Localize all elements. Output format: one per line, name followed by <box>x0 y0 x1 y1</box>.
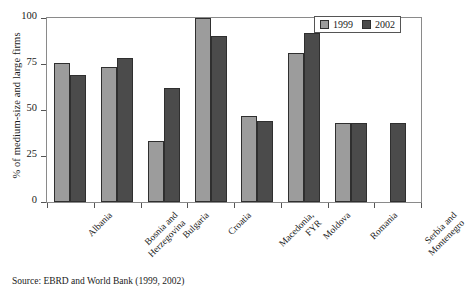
x-axis-label-line: Croatia <box>226 210 253 237</box>
x-tick-mark <box>281 203 282 208</box>
bar-2002-bosnia-and-herzegovina <box>117 58 133 202</box>
x-tick-mark <box>421 203 422 208</box>
bar-1999-moldova <box>288 53 304 202</box>
bar-2002-croatia <box>211 36 227 202</box>
bar-group <box>47 18 94 202</box>
bar-2002-albania <box>70 75 86 202</box>
y-tick-label: 50 <box>27 102 38 113</box>
y-tick-mark <box>41 110 46 111</box>
x-tick-mark <box>47 203 48 208</box>
bar-group <box>234 18 281 202</box>
y-tick-mark <box>41 202 46 203</box>
bar-1999-macedonia-fyr <box>241 116 257 202</box>
y-tick-label: 0 <box>32 194 37 205</box>
bar-group <box>328 18 375 202</box>
bar-group <box>141 18 188 202</box>
x-tick-mark <box>187 203 188 208</box>
bar-1999-albania <box>54 63 70 202</box>
x-axis-label: Moldova <box>321 210 353 242</box>
x-axis-label-line: Romania <box>368 210 400 242</box>
bars-layer <box>47 18 421 202</box>
y-axis-title: % of medium-size and large firms <box>11 6 22 206</box>
legend: 1999 2002 <box>314 16 401 33</box>
x-tick-mark <box>94 203 95 208</box>
bar-2002-bulgaria <box>164 88 180 202</box>
x-tick-mark <box>328 203 329 208</box>
y-tick-mark <box>41 64 46 65</box>
legend-label-2002: 2002 <box>375 19 395 30</box>
legend-entry-1999: 1999 <box>320 19 353 30</box>
bar-2002-macedonia-fyr <box>257 121 273 202</box>
bar-2002-romania <box>351 123 367 202</box>
x-axis-label: Macedonia,FYR <box>277 210 323 256</box>
y-tick-label: 100 <box>21 10 37 21</box>
legend-swatch-2002 <box>362 20 371 29</box>
y-tick-label: 25 <box>27 148 38 159</box>
bar-2002-moldova <box>304 33 320 202</box>
y-tick-label: 75 <box>27 56 38 67</box>
x-axis-label: Croatia <box>226 210 253 237</box>
legend-swatch-1999 <box>320 20 329 29</box>
x-tick-mark <box>374 203 375 208</box>
bar-1999-croatia <box>195 18 211 202</box>
bar-group <box>281 18 328 202</box>
bar-group <box>187 18 234 202</box>
x-axis-label: Bosnia andHerzegovina <box>138 210 187 259</box>
x-axis-label-line: Moldova <box>321 210 353 242</box>
legend-entry-2002: 2002 <box>362 19 395 30</box>
x-axis-label: Romania <box>368 210 400 242</box>
bar-1999-bulgaria <box>148 141 164 202</box>
y-tick-mark <box>41 18 46 19</box>
x-tick-mark <box>141 203 142 208</box>
bar-group <box>94 18 141 202</box>
x-axis-label-line: Albania <box>86 210 115 239</box>
x-axis-label: Albania <box>86 210 115 239</box>
x-axis-label: Serbia andMontenegro <box>418 210 466 258</box>
legend-label-1999: 1999 <box>333 19 353 30</box>
y-tick-mark <box>41 156 46 157</box>
x-tick-mark <box>234 203 235 208</box>
bar-1999-bosnia-and-herzegovina <box>101 67 117 202</box>
source-note: Source: EBRD and World Bank (1999, 2002) <box>12 276 184 286</box>
bar-group <box>374 18 421 202</box>
bar-1999-romania <box>335 123 351 202</box>
bar-2002-serbia-and-montenegro <box>390 123 406 202</box>
